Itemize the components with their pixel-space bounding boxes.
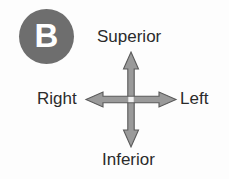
label-superior: Superior: [97, 28, 161, 46]
panel-badge-letter: B: [35, 19, 59, 52]
label-inferior: Inferior: [102, 151, 155, 169]
label-right: Right: [37, 90, 77, 108]
cross-junction: [128, 97, 133, 102]
orientation-figure: B Superior Inferior Right Left: [0, 0, 229, 179]
panel-badge-b: B: [19, 9, 74, 64]
label-left: Left: [180, 90, 208, 108]
orientation-cross-arrows: [80, 48, 182, 151]
